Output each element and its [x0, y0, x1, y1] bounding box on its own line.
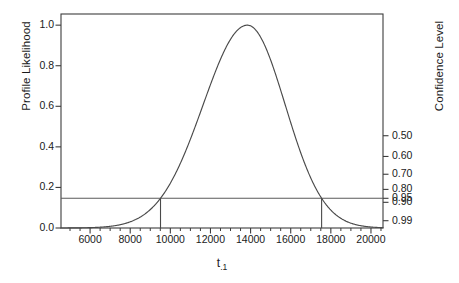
- y-tick-left-label: 0.8: [14, 59, 54, 71]
- y-tick-right-label: 0.95: [392, 191, 428, 203]
- y-tick-left-label: 0.6: [14, 99, 54, 111]
- plot-frame: [61, 14, 383, 228]
- y-tick-left-label: 0.4: [14, 140, 54, 152]
- x-tick-label: 20000: [345, 233, 397, 245]
- y-tick-right-label: 0.60: [392, 149, 428, 161]
- y-tick-left-label: 0.0: [14, 221, 54, 233]
- y-tick-left-label: 1.0: [14, 18, 54, 30]
- y-tick-right-label: 0.99: [392, 214, 428, 226]
- y-tick-right-label: 0.50: [392, 129, 428, 141]
- profile-likelihood-curve: [61, 25, 383, 228]
- y-tick-left-label: 0.2: [14, 180, 54, 192]
- y-axis-right-ticks: [383, 136, 389, 221]
- y-tick-right-label: 0.70: [392, 167, 428, 179]
- profile-likelihood-chart: Profile Likelihood Confidence Level t.1 …: [0, 0, 459, 283]
- y-axis-left-ticks: [56, 25, 62, 228]
